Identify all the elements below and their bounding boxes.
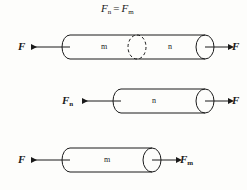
force-symbol: F — [18, 40, 25, 52]
row2-right-force-label: F — [232, 95, 239, 108]
row2-left-force-label: Fn — [62, 95, 73, 108]
diagram-canvas — [0, 0, 247, 190]
force-subscript: n — [69, 100, 73, 108]
row3-right-force-label: Fm — [180, 154, 193, 167]
row1-right-force-label: F — [232, 41, 239, 54]
row1-body-label-n: n — [168, 43, 172, 51]
force-symbol: F — [18, 153, 25, 165]
row1-left-force-label: F — [18, 41, 25, 54]
row2-body-label-n: n — [152, 97, 156, 105]
row1-body-label-m: m — [101, 43, 107, 51]
interface-dashed-ellipse — [128, 35, 146, 59]
force-subscript: m — [187, 159, 193, 167]
force-symbol: F — [232, 94, 239, 106]
row3-left-force-label: F — [18, 154, 25, 167]
force-symbol: F — [232, 40, 239, 52]
physics-force-diagram: Fn=Fm — [0, 0, 247, 190]
row-combined-system — [31, 35, 228, 59]
row3-body-label-m: m — [104, 156, 110, 164]
